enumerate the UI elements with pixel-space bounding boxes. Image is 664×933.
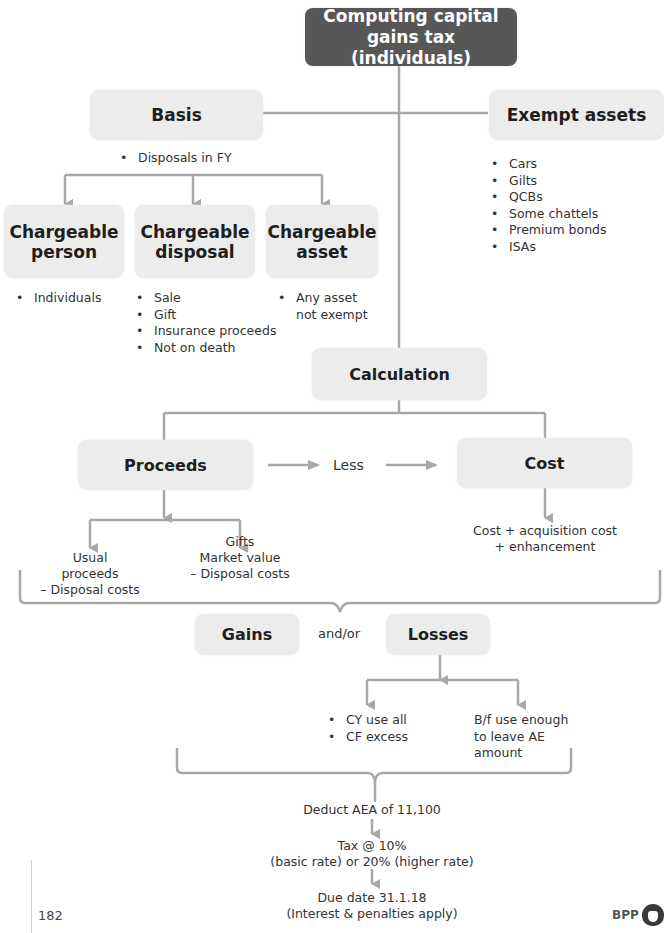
list-item: Gilts	[487, 173, 607, 190]
cost-detail: Cost + acquisition cost + enhancement	[460, 523, 630, 555]
list-item: Gift	[132, 307, 276, 324]
bf-line-1: B/f use enough	[474, 712, 568, 729]
usual-line-2: proceeds	[35, 566, 145, 582]
cost-detail-line-1: Cost + acquisition cost	[460, 523, 630, 539]
less-label: Less	[333, 457, 364, 473]
exempt-assets-list: Cars Gilts QCBs Some chattels Premium bo…	[487, 156, 607, 255]
losses-cy-list: CY use all CF excess	[324, 712, 408, 745]
list-item: Premium bonds	[487, 222, 607, 239]
list-item: Any asset not exempt	[274, 290, 374, 323]
cost-detail-line-2: + enhancement	[460, 539, 630, 555]
list-item: Individuals	[12, 290, 101, 307]
lion-icon	[642, 904, 664, 926]
proceeds-label: Proceeds	[124, 456, 207, 475]
bf-line-2: to leave AE	[474, 729, 568, 746]
list-item: Sale	[132, 290, 276, 307]
and-or-label: and/or	[318, 626, 360, 642]
chargeable-disposal-label-1: Chargeable	[140, 222, 249, 242]
list-item: Not on death	[132, 340, 276, 357]
chargeable-person-label-1: Chargeable	[9, 222, 118, 242]
list-item: Some chattels	[487, 206, 607, 223]
list-item: Insurance proceeds	[132, 323, 276, 340]
page-margin-line	[31, 860, 32, 933]
calculation-label: Calculation	[349, 365, 450, 384]
basis-list: Disposals in FY	[116, 150, 232, 167]
title-box: Computing capital gains tax (individuals…	[305, 8, 517, 66]
losses-bf-text: B/f use enough to leave AE amount	[474, 712, 568, 762]
calculation-box: Calculation	[312, 348, 487, 400]
due-line-2: (Interest & penalties apply)	[222, 906, 522, 922]
deduct-aea-text: Deduct AEA of 11,100	[222, 802, 522, 818]
chargeable-asset-list: Any asset not exempt	[274, 290, 374, 323]
basis-label: Basis	[151, 105, 202, 125]
exempt-assets-box: Exempt assets	[489, 90, 664, 140]
chargeable-disposal-label-2: disposal	[155, 242, 234, 262]
cost-label: Cost	[525, 454, 565, 473]
gifts-line-1: Gifts	[185, 534, 295, 550]
losses-box: Losses	[386, 614, 490, 655]
chargeable-asset-label-1: Chargeable	[267, 222, 376, 242]
title-text: Computing capital gains tax (individuals…	[305, 6, 517, 69]
due-line-1: Due date 31.1.18	[222, 890, 522, 906]
losses-label: Losses	[408, 625, 469, 644]
usual-line-1: Usual	[35, 550, 145, 566]
tax-line-1: Tax @ 10%	[222, 838, 522, 854]
bpp-logo: BPP	[612, 904, 664, 926]
page-number: 182	[38, 908, 63, 923]
due-date-text: Due date 31.1.18 (Interest & penalties a…	[222, 890, 522, 922]
list-item: ISAs	[487, 239, 607, 256]
gains-box: Gains	[195, 614, 299, 655]
usual-line-3: – Disposal costs	[35, 582, 145, 598]
cost-box: Cost	[457, 438, 632, 488]
list-item: Cars	[487, 156, 607, 173]
chargeable-asset-box: Chargeable asset	[266, 205, 378, 278]
chargeable-person-box: Chargeable person	[4, 205, 124, 278]
tax-line-2: (basic rate) or 20% (higher rate)	[222, 854, 522, 870]
bf-line-3: amount	[474, 745, 568, 762]
exempt-assets-label: Exempt assets	[507, 105, 647, 125]
tax-rate-text: Tax @ 10% (basic rate) or 20% (higher ra…	[222, 838, 522, 870]
gains-label: Gains	[222, 625, 272, 644]
list-item: CY use all	[324, 712, 408, 729]
chargeable-disposal-list: Sale Gift Insurance proceeds Not on deat…	[132, 290, 276, 356]
list-item: QCBs	[487, 189, 607, 206]
basis-box: Basis	[90, 90, 263, 140]
proceeds-box: Proceeds	[78, 440, 253, 490]
gifts-line-3: – Disposal costs	[185, 566, 295, 582]
chargeable-person-list: Individuals	[12, 290, 101, 307]
chargeable-asset-label-2: asset	[296, 242, 347, 262]
list-item: CF excess	[324, 729, 408, 746]
chargeable-person-label-2: person	[31, 242, 97, 262]
chargeable-disposal-box: Chargeable disposal	[135, 205, 255, 278]
list-item: Disposals in FY	[116, 150, 232, 167]
brand-text: BPP	[612, 908, 639, 922]
gifts-text: Gifts Market value – Disposal costs	[185, 534, 295, 582]
usual-proceeds-text: Usual proceeds – Disposal costs	[35, 550, 145, 598]
gifts-line-2: Market value	[185, 550, 295, 566]
